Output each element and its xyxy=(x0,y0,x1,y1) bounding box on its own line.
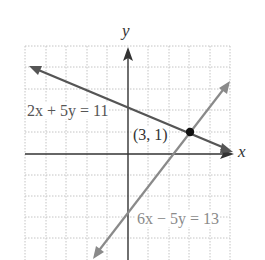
arrow-head-icon xyxy=(220,143,233,153)
intersection-label: (3, 1) xyxy=(132,127,169,143)
line2-label: 6x − 5y = 13 xyxy=(136,211,220,227)
intersection-point xyxy=(186,128,194,136)
x-axis-label: x xyxy=(238,143,246,160)
axes xyxy=(25,47,234,260)
y-axis-label: y xyxy=(122,22,130,39)
line-6x-minus-5y-eq-13 xyxy=(93,81,230,259)
arrow-head-icon xyxy=(93,246,104,259)
line1-label: 2x + 5y = 11 xyxy=(26,103,109,119)
